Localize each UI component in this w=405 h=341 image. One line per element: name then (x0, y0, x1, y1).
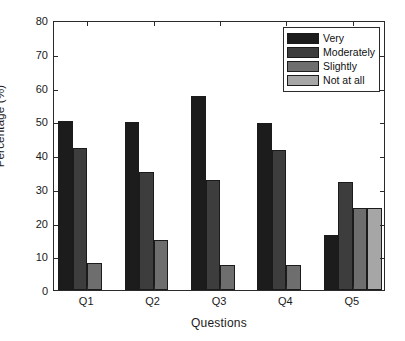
y-tick-mark (54, 123, 58, 124)
y-tick-mark (54, 191, 58, 192)
y-tick-label: 0 (0, 285, 48, 297)
y-tick-mark (380, 225, 384, 226)
x-tick-mark (154, 22, 155, 26)
y-tick-label: 70 (0, 49, 48, 61)
bar-q5-moderately (338, 182, 353, 290)
chart-legend: VeryModeratelySlightlyNot at all (283, 27, 380, 92)
y-tick-mark (380, 258, 384, 259)
y-tick-mark (54, 157, 58, 158)
bar-q5-slightly (353, 208, 368, 290)
y-tick-label: 30 (0, 184, 48, 196)
legend-item: Not at all (287, 74, 375, 87)
x-tick-mark (353, 286, 354, 290)
legend-label: Very (323, 33, 344, 44)
bar-q1-moderately (73, 148, 88, 290)
y-tick-mark (54, 225, 58, 226)
legend-swatch-moderately (287, 47, 319, 58)
x-tick-mark (286, 22, 287, 26)
bar-q3-slightly (220, 265, 235, 290)
y-tick-label: 10 (0, 251, 48, 263)
x-tick-label: Q5 (322, 295, 382, 307)
y-tick-mark (54, 258, 58, 259)
x-axis-label: Questions (53, 316, 385, 330)
y-tick-label: 20 (0, 218, 48, 230)
x-tick-mark (87, 286, 88, 290)
y-tick-label: 80 (0, 15, 48, 27)
x-tick-label: Q2 (123, 295, 183, 307)
bar-q3-very (191, 96, 206, 290)
y-tick-mark (380, 157, 384, 158)
bar-q4-moderately (272, 150, 287, 290)
legend-label: Moderately (323, 47, 375, 58)
bar-q1-very (58, 121, 73, 290)
legend-item: Moderately (287, 46, 375, 59)
bar-chart-figure: VeryModeratelySlightlyNot at all 0102030… (0, 0, 405, 341)
plot-area: VeryModeratelySlightlyNot at all (53, 21, 385, 291)
y-tick-mark (54, 90, 58, 91)
bar-q5-very (324, 235, 339, 290)
bar-q5-not-at-all (367, 208, 382, 290)
bar-q2-very (125, 122, 140, 290)
x-tick-label: Q3 (189, 295, 249, 307)
bar-q2-slightly (154, 240, 169, 290)
x-tick-mark (220, 22, 221, 26)
y-axis-label: Percentage (%) (0, 66, 6, 186)
x-tick-mark (286, 286, 287, 290)
legend-swatch-slightly (287, 61, 319, 72)
x-tick-mark (87, 22, 88, 26)
y-tick-mark (54, 56, 58, 57)
bar-q3-moderately (206, 180, 221, 290)
legend-label: Slightly (323, 61, 357, 72)
y-tick-mark (380, 56, 384, 57)
y-tick-label: 50 (0, 116, 48, 128)
legend-item: Very (287, 32, 375, 45)
y-tick-mark (380, 123, 384, 124)
bar-q4-very (257, 123, 272, 290)
y-tick-label: 40 (0, 150, 48, 162)
bar-q2-moderately (139, 172, 154, 290)
x-tick-mark (220, 286, 221, 290)
x-tick-mark (154, 286, 155, 290)
x-tick-label: Q4 (255, 295, 315, 307)
x-tick-mark (353, 22, 354, 26)
legend-swatch-very (287, 33, 319, 44)
bar-q4-slightly (286, 265, 301, 290)
x-tick-label: Q1 (56, 295, 116, 307)
y-tick-mark (380, 90, 384, 91)
legend-label: Not at all (323, 75, 364, 86)
y-tick-label: 60 (0, 83, 48, 95)
legend-swatch-not-at-all (287, 75, 319, 86)
bar-q1-slightly (87, 263, 102, 290)
legend-item: Slightly (287, 60, 375, 73)
y-tick-mark (380, 191, 384, 192)
